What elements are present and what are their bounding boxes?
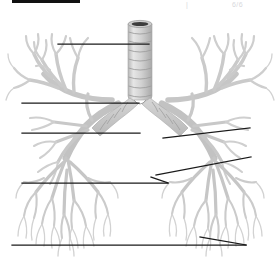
leader-line-5 bbox=[156, 157, 251, 175]
leader-pointer-7 bbox=[200, 237, 246, 245]
diagram-canvas: | 6/6 bbox=[0, 0, 280, 272]
trachea bbox=[128, 20, 152, 100]
right-bronchial-tree bbox=[6, 34, 118, 256]
bronchial-tree-illustration bbox=[0, 0, 280, 272]
leader-pointer-6 bbox=[151, 177, 168, 183]
tracheal-lumen-icon bbox=[132, 22, 149, 26]
left-bronchial-tree bbox=[162, 34, 274, 256]
